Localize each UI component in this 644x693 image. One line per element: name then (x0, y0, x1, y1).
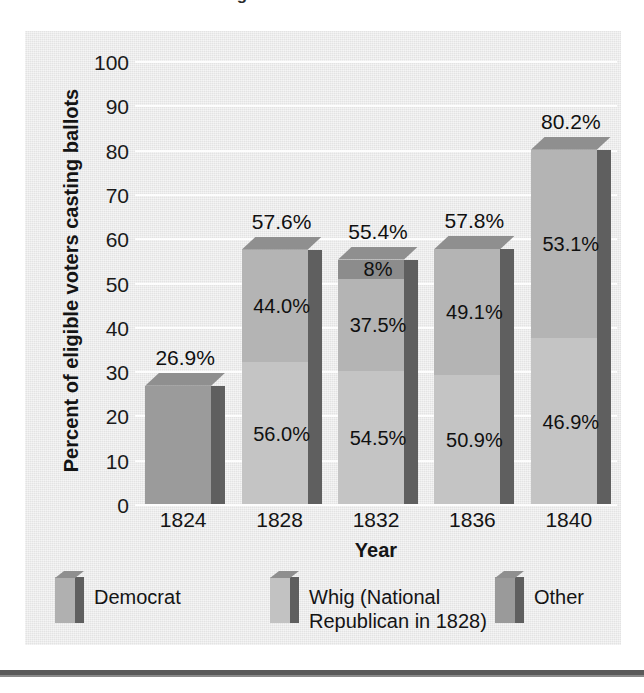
x-tick-label-1836: 1836 (424, 509, 520, 530)
legend-swatch-side (75, 577, 84, 623)
chart-title: Voting in Presidential Elections (0, 0, 644, 5)
y-tick-label-70: 70 (83, 184, 129, 205)
bar-1832[interactable]: 54.5%37.5%8%55.4% (338, 260, 404, 505)
legend-swatch-icon (55, 571, 85, 623)
y-axis-ticks: 1009080706050403020100 (77, 62, 129, 505)
legend-swatch-icon (495, 571, 525, 623)
y-tick-label-90: 90 (83, 96, 129, 117)
y-tick-label-100: 100 (83, 52, 129, 73)
bar-segment-1840-whig[interactable]: 53.1% (531, 150, 597, 339)
bar-top-face (145, 373, 225, 386)
y-tick-label-0: 0 (83, 495, 129, 516)
gridline-90 (135, 105, 617, 107)
x-tick-label-1828: 1828 (232, 509, 328, 530)
legend-swatch-side (290, 577, 299, 623)
chart-title-strip: Voting in Presidential Elections (0, 0, 644, 14)
legend-label: Democrat (94, 571, 181, 609)
legend-swatch-front (55, 577, 75, 623)
bar-segment-1840-democrat[interactable]: 46.9% (531, 338, 597, 505)
bar-segment-1836-democrat[interactable]: 50.9% (434, 375, 500, 505)
segment-value-label: 56.0% (242, 424, 322, 444)
segment-value-label: 46.9% (531, 412, 611, 432)
bar-1828[interactable]: 56.0%44.0%57.6% (242, 250, 308, 505)
legend-swatch-side (515, 577, 524, 623)
legend-swatch-front (270, 577, 290, 623)
bar-segment-1824-democrat[interactable] (145, 386, 211, 505)
bar-1824[interactable]: 26.9% (145, 386, 211, 505)
segment-value-label: 49.1% (434, 302, 514, 322)
legend-swatch-icon (270, 571, 300, 623)
bar-segment-1836-whig[interactable]: 49.1% (434, 249, 500, 375)
y-tick-label-80: 80 (83, 140, 129, 161)
x-axis-baseline (135, 504, 617, 506)
x-axis-ticks: 18241828183218361840 (135, 509, 617, 539)
bar-1836[interactable]: 50.9%49.1%57.8% (434, 249, 500, 505)
segment-value-label: 54.5% (338, 428, 418, 448)
x-tick-label-1824: 1824 (135, 509, 231, 530)
segment-value-label: 37.5% (338, 315, 418, 335)
y-tick-label-10: 10 (83, 450, 129, 471)
bar-top-face (338, 247, 418, 260)
legend-label: Whig (National Republican in 1828) (309, 571, 487, 634)
legend-label: Other (534, 571, 584, 609)
bar-top-face (434, 236, 514, 249)
legend-item-other[interactable]: Other (495, 571, 584, 623)
segment-value-label: 44.0% (242, 296, 322, 316)
chart-legend: DemocratWhig (National Republican in 182… (55, 571, 615, 637)
legend-item-whig[interactable]: Whig (National Republican in 1828) (270, 571, 487, 634)
x-axis-title: Year (135, 539, 617, 562)
gridline-100 (135, 61, 617, 63)
bar-segment-1828-whig[interactable]: 44.0% (242, 250, 308, 362)
legend-item-democrat[interactable]: Democrat (55, 571, 181, 623)
bar-side-face (211, 386, 225, 505)
y-tick-label-50: 50 (83, 273, 129, 294)
y-tick-label-40: 40 (83, 317, 129, 338)
segment-value-label: 50.9% (434, 430, 514, 450)
bar-top-face (531, 137, 611, 150)
y-tick-label-20: 20 (83, 406, 129, 427)
segment-value-label: 53.1% (531, 234, 611, 254)
bar-segment-1832-whig[interactable]: 37.5% (338, 279, 404, 371)
x-tick-label-1840: 1840 (521, 509, 617, 530)
legend-swatch-front (495, 577, 515, 623)
bar-1840[interactable]: 46.9%53.1%80.2% (531, 150, 597, 505)
bottom-divider (0, 670, 644, 677)
chart-figure: Percent of eligible voters casting ballo… (25, 31, 621, 645)
x-tick-label-1832: 1832 (328, 509, 424, 530)
y-tick-label-60: 60 (83, 229, 129, 250)
bar-total-label-1840: 80.2% (491, 111, 644, 132)
bar-segment-1832-democrat[interactable]: 54.5% (338, 371, 404, 505)
bar-segment-1832-other[interactable]: 8% (338, 260, 404, 280)
plot-area: 26.9%56.0%44.0%57.6%54.5%37.5%8%55.4%50.… (135, 62, 617, 505)
segment-value-label: 8% (338, 259, 418, 279)
bar-segment-1828-democrat[interactable]: 56.0% (242, 362, 308, 505)
